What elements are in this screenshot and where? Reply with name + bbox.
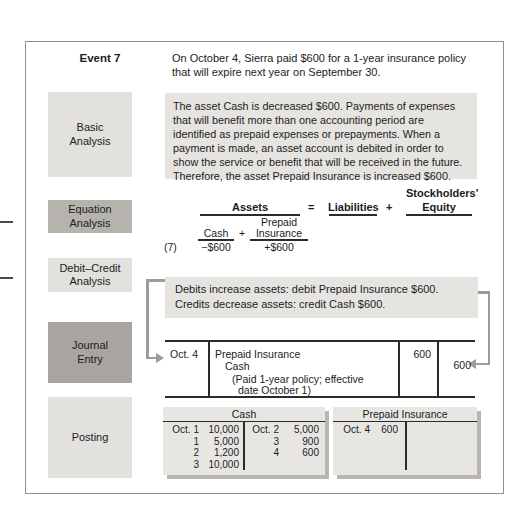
taccount-divider xyxy=(405,422,407,470)
debit-rule-line: Debits increase assets: debit Prepaid In… xyxy=(175,282,468,297)
entry-date: 4 xyxy=(247,447,279,459)
journal-date: Oct. 4 xyxy=(170,349,198,361)
prepaid-label-line2: Insurance xyxy=(251,227,307,239)
liabilities-underline xyxy=(329,214,377,216)
basic-analysis-label: Basic Analysis xyxy=(48,92,132,177)
liabilities-header: Liabilities xyxy=(328,201,378,213)
entry-amount: 1,200 xyxy=(199,447,241,459)
journal-bottom-rule xyxy=(165,396,475,398)
cash-amount: −$600 xyxy=(198,241,234,253)
equity-header: Equity xyxy=(406,201,472,213)
entry-date: Oct. 4 xyxy=(338,424,370,436)
entry-amount: 600 xyxy=(279,447,321,459)
journal-date-column-rule xyxy=(208,340,210,397)
prepaid-amount: +$600 xyxy=(250,241,308,253)
journal-memo-line2: date October 1) xyxy=(238,385,311,397)
cash-column-label: Cash xyxy=(199,227,233,239)
prepaid-debit-column: Oct. 4 600 xyxy=(338,424,400,436)
event-label: Event 7 xyxy=(58,52,142,64)
taccount-divider xyxy=(243,422,245,470)
arrow-right-icon xyxy=(156,353,164,363)
arrow-to-journal-credit xyxy=(476,363,490,366)
taccount-entry-row: Oct. 1 10,000 xyxy=(167,424,241,436)
taccount-entry-row: Oct. 2 5,000 xyxy=(247,424,321,436)
entry-amount: 600 xyxy=(370,424,400,436)
cash-taccount: Cash Oct. 1 10,000 1 5,000 2 1,200 3 1 xyxy=(163,407,325,475)
entry-amount: 900 xyxy=(279,436,321,448)
basic-analysis-text: The asset Cash is decreased $600. Paymen… xyxy=(165,93,477,179)
taccount-entry-row: 2 1,200 xyxy=(167,447,241,459)
prepaid-taccount-body: Oct. 4 600 xyxy=(333,422,477,474)
cash-taccount-body: Oct. 1 10,000 1 5,000 2 1,200 3 10,000 xyxy=(163,422,325,474)
prepaid-taccount-title: Prepaid Insurance xyxy=(333,407,477,422)
journal-debit-account: Prepaid Insurance xyxy=(215,349,300,361)
margin-connector-line-top xyxy=(0,221,13,223)
posting-label: Posting xyxy=(48,397,132,478)
cash-debit-column: Oct. 1 10,000 1 5,000 2 1,200 3 10,000 xyxy=(167,424,241,470)
taccount-entry-row: 3 900 xyxy=(247,436,321,448)
journal-credit-amount: 600 xyxy=(437,360,471,372)
margin-connector-line-bottom xyxy=(0,277,13,279)
taccount-entry-row: 3 10,000 xyxy=(167,459,241,471)
transaction-number: (7) xyxy=(164,241,177,253)
entry-amount: 5,000 xyxy=(279,424,321,436)
entry-date: 1 xyxy=(167,436,199,448)
entry-amount: 5,000 xyxy=(199,436,241,448)
stockholders-header: Stockholders' xyxy=(406,187,472,199)
arrow-to-journal-credit xyxy=(488,291,491,365)
journal-credit-account: Cash xyxy=(225,361,250,373)
cash-taccount-title: Cash xyxy=(163,407,325,422)
assets-header: Assets xyxy=(200,201,300,213)
taccount-entry-row: 1 5,000 xyxy=(167,436,241,448)
cash-credit-column: Oct. 2 5,000 3 900 4 600 xyxy=(247,424,321,459)
entry-date: 3 xyxy=(247,436,279,448)
entry-amount: 10,000 xyxy=(199,459,241,471)
prepaid-insurance-taccount: Prepaid Insurance Oct. 4 600 xyxy=(333,407,477,475)
entry-amount: 10,000 xyxy=(199,424,241,436)
arrow-to-journal-date xyxy=(146,279,149,359)
debit-credit-analysis-text: Debits increase assets: debit Prepaid In… xyxy=(165,277,478,318)
event-description: On October 4, Sierra paid $600 for a 1-y… xyxy=(172,51,474,79)
journal-entry-label: Journal Entry xyxy=(48,322,132,383)
debit-credit-analysis-label: Debit–Credit Analysis xyxy=(48,258,132,292)
journal-debit-amount: 600 xyxy=(398,349,431,361)
entry-date: 3 xyxy=(167,459,199,471)
equation-analysis-label: Equation Analysis xyxy=(48,200,132,233)
arrow-to-journal-date xyxy=(146,279,165,282)
taccount-entry-row: Oct. 4 600 xyxy=(338,424,400,436)
equity-underline xyxy=(406,214,472,216)
entry-date: 2 xyxy=(167,447,199,459)
inner-plus-sign: + xyxy=(239,227,245,239)
entry-date: Oct. 1 xyxy=(167,424,199,436)
journal-top-rule xyxy=(165,340,475,342)
credit-rule-line: Credits decrease assets: credit Cash $60… xyxy=(175,297,468,312)
entry-date: Oct. 2 xyxy=(247,424,279,436)
plus-sign: + xyxy=(386,201,392,213)
equals-sign: = xyxy=(308,201,314,213)
textbook-figure: Event 7 On October 4, Sierra paid $600 f… xyxy=(0,0,530,522)
taccount-entry-row: 4 600 xyxy=(247,447,321,459)
